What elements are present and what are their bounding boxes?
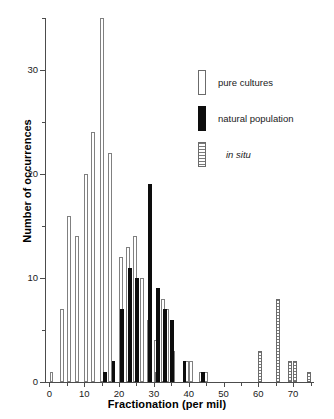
bar: [189, 361, 193, 382]
bar: [170, 320, 174, 382]
x-tick-minor: [102, 383, 103, 386]
bar: [120, 309, 124, 382]
x-tick: [224, 383, 225, 387]
y-tick-label: 0: [2, 376, 38, 387]
x-tick-minor: [67, 383, 68, 386]
bar: [307, 372, 311, 382]
legend-swatch-in-situ: [198, 142, 206, 167]
x-tick-minor: [311, 383, 312, 386]
y-tick: [40, 174, 45, 175]
x-tick: [189, 383, 190, 387]
chart-figure: 0102030 010203040506070 Fractionation (p…: [0, 0, 334, 419]
legend-label-pure-cultures: pure cultures: [218, 77, 273, 88]
bar: [50, 372, 54, 382]
bar: [75, 236, 79, 382]
x-tick: [119, 383, 120, 387]
bar: [67, 216, 71, 382]
bar: [60, 309, 64, 382]
y-tick-minor: [42, 122, 45, 123]
y-tick: [40, 382, 45, 383]
x-tick-minor: [241, 383, 242, 386]
bar: [91, 132, 95, 382]
bar: [103, 372, 107, 382]
x-axis-title: Fractionation (per mil): [0, 398, 334, 410]
x-tick-minor: [276, 383, 277, 386]
bar: [288, 361, 292, 382]
y-tick: [40, 278, 45, 279]
bar: [135, 278, 139, 382]
legend-swatch-natural-population: [198, 106, 206, 131]
bar: [156, 288, 160, 382]
bar: [183, 361, 187, 382]
bar: [112, 361, 116, 382]
y-tick-minor: [42, 226, 45, 227]
y-tick-minor: [42, 330, 45, 331]
x-tick: [258, 383, 259, 387]
x-tick: [293, 383, 294, 387]
bar: [84, 174, 88, 382]
x-tick-minor: [206, 383, 207, 386]
y-tick: [40, 70, 45, 71]
bar: [148, 184, 152, 382]
bar: [140, 278, 144, 382]
bar: [128, 268, 132, 382]
legend-label-in-situ: in situ: [226, 149, 251, 160]
bar: [163, 309, 167, 382]
bar: [108, 153, 112, 382]
legend-swatch-pure-cultures: [198, 70, 206, 95]
bar: [293, 361, 297, 382]
bar: [258, 351, 262, 382]
x-tick-minor: [171, 383, 172, 386]
x-tick: [154, 383, 155, 387]
x-axis-line: [45, 382, 314, 383]
legend-item-natural-population: natural population: [198, 106, 328, 142]
x-tick: [49, 383, 50, 387]
legend-item-in-situ: in situ: [198, 142, 328, 178]
bar: [100, 18, 104, 382]
bar: [201, 372, 205, 382]
legend-item-pure-cultures: pure cultures: [198, 70, 328, 106]
x-tick-minor: [136, 383, 137, 386]
y-tick-minor: [42, 18, 45, 19]
chart-legend: pure cultures natural population in situ: [198, 70, 328, 178]
bar: [276, 299, 280, 382]
legend-label-natural-population: natural population: [218, 113, 294, 124]
x-tick: [84, 383, 85, 387]
y-axis-title: Number of occurrences: [21, 66, 33, 296]
